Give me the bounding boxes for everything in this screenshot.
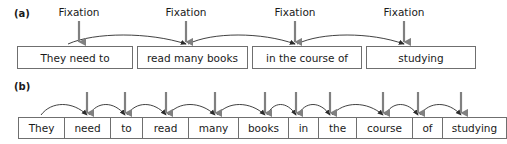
panel-b-saccade-arcs [41, 105, 461, 116]
panel-b-fixation-arrows [87, 92, 461, 113]
saccade-arc [385, 105, 418, 116]
saccade-arc [267, 105, 296, 116]
saccade-arc [217, 105, 265, 116]
panel-a-fixation-arrows [79, 21, 404, 42]
saccade-arc [41, 105, 87, 116]
saccade-arc [297, 35, 404, 44]
saccade-arc [332, 105, 383, 116]
saccade-arc [420, 105, 461, 116]
panel-a-saccade-arcs [68, 35, 404, 44]
saccade-arc [127, 105, 166, 116]
saccade-arc [68, 35, 186, 44]
saccade-arc [89, 105, 125, 116]
saccade-arc [188, 35, 295, 44]
saccade-arc [298, 105, 330, 116]
saccade-arc [168, 105, 215, 116]
